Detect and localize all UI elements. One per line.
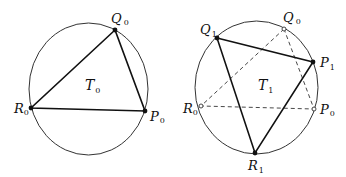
point-P1 (311, 60, 316, 65)
triangle-T0 (31, 30, 145, 111)
label-P0-right: P0 (319, 102, 335, 118)
right-figure: Q1 Q0 P1 T1 R0 P0 R1 (182, 10, 335, 175)
label-Q0-right: Q0 (283, 10, 301, 26)
triangle-rotation-diagram: Q0 T0 R0 P0 Q1 Q0 P1 T1 R0 P0 R1 (0, 0, 346, 177)
point-P0 (143, 109, 148, 114)
label-T1: T1 (258, 77, 273, 95)
point-R1 (253, 151, 258, 156)
label-P1: P1 (319, 55, 335, 72)
label-R0-right: R0 (182, 101, 198, 117)
label-Q0: Q0 (111, 11, 129, 27)
point-R0 (29, 106, 34, 111)
label-Q1: Q1 (200, 22, 217, 39)
point-R0-open (199, 104, 203, 108)
left-figure: Q0 T0 R0 P0 (13, 11, 165, 155)
label-T0: T0 (85, 77, 100, 95)
circumcircle-right (195, 21, 318, 154)
point-Q0 (113, 28, 118, 33)
point-P0-open (312, 107, 316, 111)
label-R1: R1 (247, 158, 264, 175)
label-P0: P0 (149, 109, 165, 125)
label-R0: R0 (13, 101, 29, 117)
point-Q0-open (282, 27, 286, 31)
